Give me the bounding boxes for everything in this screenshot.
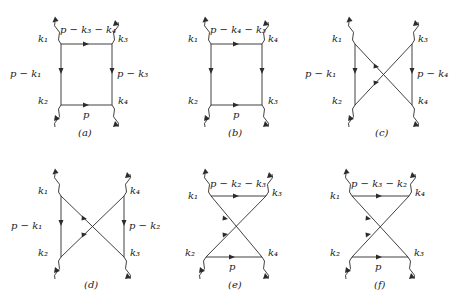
diagram-a-bottom-arrow (83, 103, 89, 108)
diagram-d-leg-k1-arrow (53, 169, 59, 175)
diagram-d-caption: (d) (84, 279, 98, 290)
diagram-f-caption: (f) (374, 279, 386, 290)
diagram-f-label-k1: k₁ (330, 190, 340, 201)
diagram-f-bottom-arrow (376, 255, 382, 260)
diagram-d-label-k3: k₃ (130, 247, 140, 258)
diagram-f-top-arrow (376, 194, 382, 199)
diagram-e-diagonal-up (206, 196, 266, 257)
diagram-a-left-arrow (59, 68, 64, 74)
diagram-a-label-right-momentum: p − k₃ (117, 68, 148, 79)
diagram-b-left-arrow (209, 68, 214, 74)
diagram-f-label-k2: k₂ (330, 247, 340, 258)
feynman-diagram-figure: k₁ k₃ k₂ k₄ p − k₃ − k₄ p − k₁ p − k₃ p … (0, 0, 461, 306)
diagram-f-diag-up-arrow (366, 233, 372, 238)
diagram-a-label-k3: k₃ (118, 33, 128, 44)
diagram-c-label-k1: k₁ (332, 33, 342, 44)
diagram-f-label-k4: k₄ (415, 187, 425, 198)
diagram-e-top-arrow (233, 194, 239, 199)
diagram-c-caption: (c) (375, 127, 389, 138)
diagram-c-label-k3: k₃ (418, 33, 428, 44)
diagram-b-bottom-arrow (233, 103, 239, 108)
diagram-f-label-bottom-momentum: p (375, 261, 382, 272)
diagram-c-leg-k1-arrow (347, 17, 353, 23)
diagram-f-leg-k1-arrow (344, 169, 350, 175)
diagram-e-label-k2: k₂ (185, 247, 195, 258)
diagram-b-right-arrow (260, 68, 265, 74)
diagram-c-label-k2: k₂ (332, 95, 342, 106)
diagram-c-left-arrow (353, 68, 358, 74)
diagram-b-label-bottom-momentum: p (233, 109, 240, 120)
diagram-e-leg-k1-arrow (203, 169, 209, 175)
diagram-d-right-arrow (122, 220, 127, 226)
diagram-d-label-k2: k₂ (38, 247, 48, 258)
diagram-d-external-leg-k1 (54, 174, 61, 196)
diagram-e-label-k4: k₄ (268, 247, 278, 258)
diagram-a-label-k4: k₄ (118, 95, 128, 106)
diagram-e: k₁ k₃ k₂ k₄ p − k₂ − k₃ p (e) (185, 169, 282, 291)
diagram-f-label-k3: k₃ (414, 247, 424, 258)
diagram-c-diag-up-arrow (374, 81, 380, 86)
diagram-a-caption: (a) (78, 127, 92, 138)
diagram-b-leg-k1-arrow (203, 17, 209, 23)
diagram-d-left-arrow (59, 220, 64, 226)
diagram-c-label-k4: k₄ (418, 95, 428, 106)
diagram-b-top-arrow (233, 42, 239, 47)
diagram-b-caption: (b) (228, 127, 242, 138)
diagram-d-label-k4: k₄ (130, 185, 140, 196)
diagram-b-label-k1: k₁ (188, 33, 198, 44)
diagram-c-label-left-momentum: p − k₁ (305, 68, 336, 79)
diagram-a-label-left-momentum: p − k₁ (10, 68, 41, 79)
diagram-a-right-arrow (110, 68, 115, 74)
diagram-c-right-arrow (410, 68, 415, 74)
diagram-e-diag-down-arrow (223, 216, 229, 221)
diagram-a-label-k2: k₂ (38, 95, 48, 106)
diagram-a-top-arrow (83, 42, 89, 47)
diagram-a-label-top-momentum: p − k₃ − k₄ (60, 24, 116, 35)
diagram-e-caption: (e) (228, 279, 242, 290)
diagram-f: k₁ k₄ k₂ k₃ p − k₃ − k₂ p (f) (330, 169, 425, 291)
diagram-d-label-left-momentum: p − k₁ (11, 220, 42, 231)
diagram-e-label-bottom-momentum: p (229, 261, 236, 272)
diagram-b: k₁ k₄ k₂ k₃ p − k₄ − k₃ p (b) (188, 17, 278, 139)
diagram-f-label-top-momentum: p − k₃ − k₂ (351, 178, 407, 189)
diagram-e-bottom-arrow (229, 255, 235, 260)
diagram-d: k₁ k₄ k₂ k₃ p − k₁ p − k₂ (d) (11, 169, 160, 291)
diagram-d-label-k1: k₁ (38, 185, 48, 196)
diagram-e-label-k3: k₃ (272, 187, 282, 198)
diagram-b-label-k4: k₄ (268, 33, 278, 44)
diagram-a: k₁ k₃ k₂ k₄ p − k₃ − k₄ p − k₁ p − k₃ p … (10, 17, 148, 139)
diagram-b-label-k3: k₃ (268, 95, 278, 106)
diagram-e-label-top-momentum: p − k₂ − k₃ (210, 178, 266, 189)
diagram-d-label-right-momentum: p − k₂ (129, 220, 160, 231)
diagram-b-label-k2: k₂ (188, 95, 198, 106)
diagram-c: k₁ k₃ k₂ k₄ p − k₁ p − k₄ (c) (305, 17, 448, 139)
diagram-e-label-k1: k₁ (188, 190, 198, 201)
diagram-c-external-leg-k1 (348, 22, 355, 44)
diagram-a-label-bottom-momentum: p (83, 109, 90, 120)
diagram-a-label-k1: k₁ (38, 33, 48, 44)
diagram-c-diag-down-arrow (374, 64, 380, 69)
diagram-c-label-right-momentum: p − k₄ (417, 68, 448, 79)
diagram-b-label-top-momentum: p − k₄ − k₃ (210, 24, 266, 35)
diagram-a-leg-k1-arrow (53, 17, 59, 23)
